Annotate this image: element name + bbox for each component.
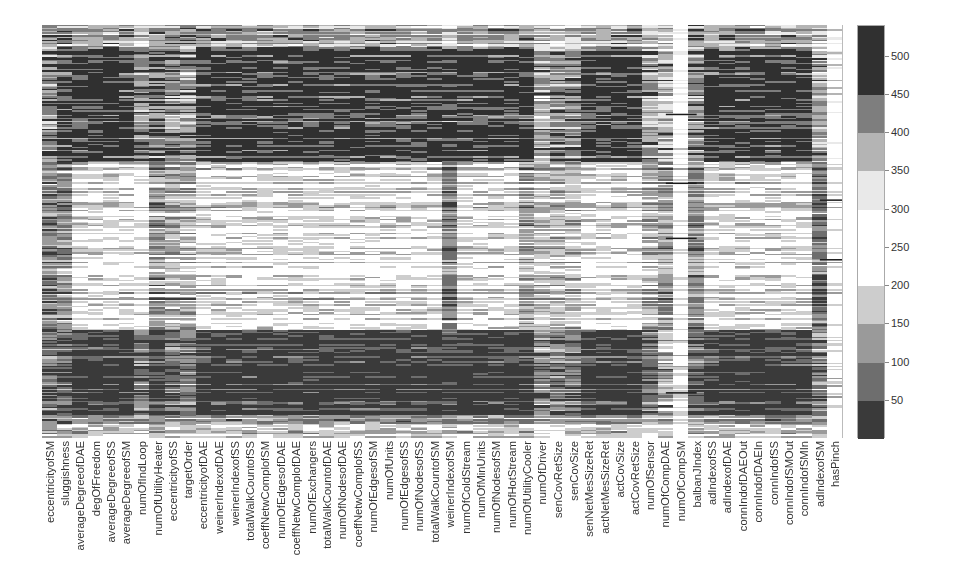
colorbar-segment (858, 95, 884, 133)
colorbar-tick-mark (885, 56, 889, 57)
x-tick-label: totalWalkCountofDAE (320, 441, 334, 580)
x-tick-label: numOfSensor (643, 441, 657, 580)
colorbar-tick-mark (885, 362, 889, 363)
colorbar-segment (858, 210, 884, 286)
x-tick-label-text: averageDegreeofSS (104, 441, 118, 542)
x-tick-label: numOfUtilityCooler (520, 441, 534, 580)
x-tick-label: numOfNodesofDAE (335, 441, 349, 580)
x-tick-label: sluggishness (58, 441, 72, 580)
x-tick-label-text: numOfEdgesofDAE (274, 441, 288, 539)
x-tick-label-text: averageDegreeofDAE (74, 441, 88, 550)
colorbar-segment (858, 133, 884, 171)
x-tick-label-text: senNetMesSizeRet (582, 441, 596, 537)
colorbar-tick-label: 200 (891, 279, 909, 291)
colorbar-segment (858, 171, 884, 209)
x-tick-label: numOfUtilityHeater (151, 441, 165, 580)
x-tick-label-text: numOfIndLoop (135, 441, 149, 515)
colorbar-tick-label: 500 (891, 50, 909, 62)
x-tick-label: averageDegreeofSM (120, 441, 134, 580)
x-tick-label-text: coeffNetwComplofDAE (289, 441, 303, 555)
x-tick-label-text: eccentricityofSS (166, 441, 180, 521)
x-tick-label-text: numOfEdgesofSS (397, 441, 411, 531)
x-tick-label-text: numOfNodesofDAE (335, 441, 349, 539)
x-tick-label: adIndexofSS (705, 441, 719, 580)
x-tick-label: senCovSize (566, 441, 580, 580)
x-tick-label: numOfNodesofSM (489, 441, 503, 580)
x-tick-label-text: weinerIndexofSM (443, 441, 457, 527)
x-tick-label-text: weinerIndexofSS (228, 441, 242, 526)
x-tick-label-text: balbanJIndex (690, 441, 704, 508)
x-tick-label: numOfDriver (536, 441, 550, 580)
x-tick-label: numOfIndLoop (135, 441, 149, 580)
colorbar-tick-mark (885, 209, 889, 210)
x-tick-label: adIndexofSM (813, 441, 827, 580)
x-tick-label-text: hasPinch (828, 441, 842, 487)
x-tick-label-text: adIndexofDAE (720, 441, 734, 513)
x-tick-label-text: connIndofSMOut (782, 441, 796, 525)
colorbar-segment (858, 324, 884, 362)
x-tick-label: hasPinch (828, 441, 842, 580)
x-tick-label: actCovRetSize (628, 441, 642, 580)
x-tick-label: totalWalkCountofSM (428, 441, 442, 580)
x-tick-label: numOfEdgesofSS (397, 441, 411, 580)
x-tick-label: numOfEdgesofSM (366, 441, 380, 580)
x-tick-label-text: numOfHotStream (505, 441, 519, 528)
x-tick-label-text: numOfDriver (536, 441, 550, 504)
x-tick-label: numOfMinUnits (474, 441, 488, 580)
x-tick-label-text: numOfUtilityCooler (520, 441, 534, 535)
x-tick-label: connIndofDAEOut (736, 441, 750, 580)
x-tick-label-text: totalWalkCountofDAE (320, 441, 334, 549)
x-tick-label: degOfFreedom (89, 441, 103, 580)
x-tick-label-text: numOfNodesofSS (412, 441, 426, 531)
colorbar-tick-mark (885, 132, 889, 133)
colorbar-tick-label: 450 (891, 88, 909, 100)
colorbar-tick-label: 400 (891, 126, 909, 138)
x-tick-label: numOfHotStream (505, 441, 519, 580)
colorbar-tick-label: 250 (891, 241, 909, 253)
x-tick-label: numOfCompSM (674, 441, 688, 580)
x-tick-label: averageDegreeofDAE (74, 441, 88, 580)
x-axis-labels: eccentricityofSMsluggishnessaverageDegre… (42, 441, 843, 580)
colorbar-tick-label: 300 (891, 203, 909, 215)
x-tick-label-text: numOfEdgesofSM (366, 441, 380, 532)
x-tick-label-text: numOfSensor (643, 441, 657, 510)
x-tick-label: connIndofSS (767, 441, 781, 580)
x-tick-label: balbanJIndex (690, 441, 704, 580)
x-tick-label-text: numOfCompDAE (659, 441, 673, 527)
x-tick-label: numOfEdgesofDAE (274, 441, 288, 580)
x-tick-label-text: adIndexofSS (705, 441, 719, 505)
x-tick-label: senCovRetSize (551, 441, 565, 580)
x-tick-label: actCovSize (613, 441, 627, 580)
x-tick-label-text: coeffNetwComplofSS (351, 441, 365, 547)
x-tick-label: targetOrder (181, 441, 195, 580)
heatmap-canvas (42, 25, 843, 438)
x-tick-label-text: connIndofSS (767, 441, 781, 505)
x-tick-label-text: numOfExchangers (305, 441, 319, 534)
x-tick-label-text: numOfUnits (382, 441, 396, 500)
x-tick-label: coeffNetwComplofSM (258, 441, 272, 580)
x-tick-label: totalWalkCountofSS (243, 441, 257, 580)
colorbar-tick-mark (885, 247, 889, 248)
x-tick-label: weinerIndexofSM (443, 441, 457, 580)
x-tick-label-text: adIndexofSM (813, 441, 827, 507)
colorbar-segment (858, 401, 884, 439)
x-tick-label: numOfCompDAE (659, 441, 673, 580)
x-tick-label-text: senCovSize (566, 441, 580, 501)
colorbar-tick-mark (885, 323, 889, 324)
x-tick-label-text: actCovSize (613, 441, 627, 498)
x-tick-label: numOfUnits (382, 441, 396, 580)
x-tick-label: eccentricityofSM (43, 441, 57, 580)
x-tick-label: connIndofSMOut (782, 441, 796, 580)
x-tick-label: numOfNodesofSS (412, 441, 426, 580)
x-tick-label-text: connIndofDAEOut (736, 441, 750, 531)
x-tick-label: adIndexofDAE (720, 441, 734, 580)
x-tick-label: numOfColdStream (459, 441, 473, 580)
x-tick-label: coeffNetwComplofSS (351, 441, 365, 580)
x-tick-label-text: sluggishness (58, 441, 72, 506)
x-tick-label-text: actCovRetSize (628, 441, 642, 515)
x-tick-label-text: connIndofDAEIn (751, 441, 765, 522)
x-tick-label: weinerIndexofSS (228, 441, 242, 580)
x-tick-label-text: numOfColdStream (459, 441, 473, 534)
x-tick-label: averageDegreeofSS (104, 441, 118, 580)
x-tick-label: actNetMesSizeRet (597, 441, 611, 580)
